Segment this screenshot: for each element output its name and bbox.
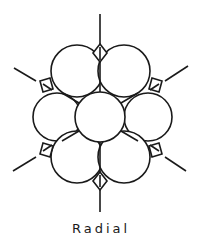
- spoke-lower-right: [165, 157, 186, 171]
- diagram-caption: Radial: [0, 221, 202, 236]
- center-circle: [75, 92, 125, 142]
- radial-diagram: [0, 0, 202, 248]
- spoke-lower-left: [13, 157, 36, 171]
- connector-upper-right: [149, 78, 162, 92]
- spoke-upper-right: [165, 66, 188, 81]
- connector-lower-left: [40, 143, 53, 157]
- connector-lower-right: [149, 143, 162, 157]
- spoke-upper-left: [14, 68, 36, 81]
- connector-upper-left: [40, 78, 53, 92]
